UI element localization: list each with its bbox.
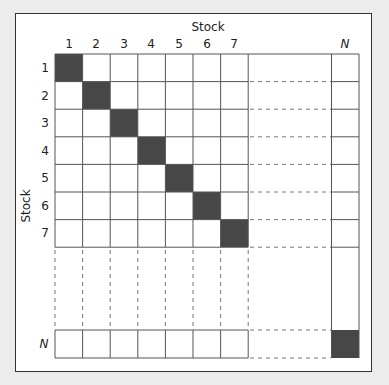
matrix-grid — [0, 0, 389, 385]
column-label: 4 — [147, 37, 155, 51]
column-label: 2 — [92, 37, 100, 51]
row-label: 3 — [41, 116, 49, 130]
column-label: 3 — [120, 37, 128, 51]
column-label: 1 — [65, 37, 73, 51]
column-label: 6 — [203, 37, 211, 51]
row-label: 2 — [41, 89, 49, 103]
row-label: 6 — [41, 199, 49, 213]
column-label: 5 — [175, 37, 183, 51]
row-label: 7 — [41, 226, 49, 240]
row-label: 4 — [41, 144, 49, 158]
column-label-n: N — [341, 37, 350, 51]
column-label: 7 — [230, 37, 238, 51]
diagonal-cells — [55, 54, 359, 358]
top-axis-title: Stock — [191, 20, 224, 34]
left-axis-title: Stock — [19, 189, 33, 222]
row-label: 1 — [41, 61, 49, 75]
row-label-n: N — [40, 337, 49, 351]
row-label: 5 — [41, 171, 49, 185]
